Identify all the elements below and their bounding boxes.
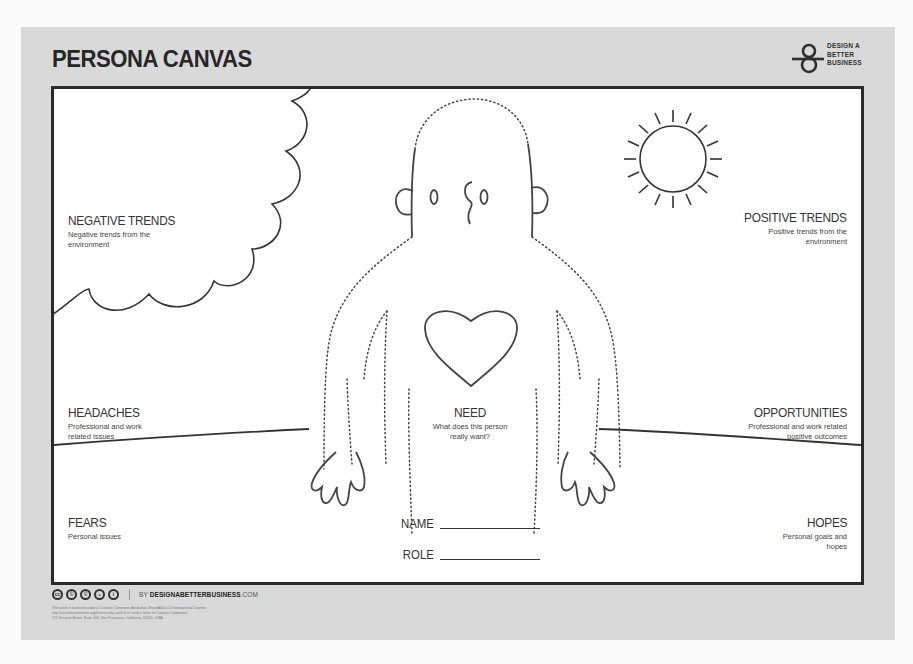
persona-canvas-frame: NEGATIVE TRENDS Negative trends from the… — [51, 86, 864, 585]
cc-by-icon: © — [66, 589, 77, 600]
fears-description: Personal issues — [68, 532, 121, 542]
section-negative-trends[interactable]: NEGATIVE TRENDS Negative trends from the… — [68, 213, 190, 250]
footer: cc © © ◒ i BY DESIGNABETTERBUSINESS.COM … — [52, 589, 282, 621]
hopes-description: Personal goals and hopes — [783, 532, 847, 552]
heart-icon — [425, 311, 517, 386]
site-link[interactable]: BY DESIGNABETTERBUSINESS.COM — [139, 591, 258, 598]
infinity-knot-icon — [790, 40, 826, 80]
section-opportunities[interactable]: OPPORTUNITIES Professional and work rela… — [741, 405, 847, 442]
negative-trends-description: Negative trends from the environment — [68, 230, 190, 250]
role-label: ROLE — [390, 547, 434, 562]
brand-logo: DESIGN A BETTER BUSINESS — [790, 40, 870, 80]
name-input-line[interactable] — [440, 527, 540, 529]
positive-trends-description: Positive trends from the environment — [730, 227, 847, 247]
section-fears[interactable]: FEARS Personal issues — [68, 515, 121, 542]
cc-attribution-icon: i — [108, 589, 119, 600]
footer-divider — [129, 589, 130, 600]
opportunities-description: Professional and work related positive o… — [741, 422, 847, 442]
section-need[interactable]: NEED What does this person really want? — [410, 405, 530, 442]
name-label: NAME — [390, 516, 434, 531]
cc-nc-icon: © — [80, 589, 91, 600]
cc-icon: cc — [52, 589, 63, 600]
cc-sa-icon: ◒ — [94, 589, 105, 600]
cloud-icon — [54, 89, 312, 317]
headaches-description: Professional and work related issues — [68, 422, 149, 442]
persona-figure-icon — [312, 99, 620, 534]
section-positive-trends[interactable]: POSITIVE TRENDS Positive trends from the… — [730, 210, 847, 247]
sun-icon — [624, 110, 722, 208]
page-title: PERSONA CANVAS — [52, 45, 252, 73]
brand-name: DESIGN A BETTER BUSINESS — [827, 42, 862, 68]
section-headaches[interactable]: HEADACHES Professional and work related … — [68, 405, 149, 442]
section-hopes[interactable]: HOPES Personal goals and hopes — [783, 515, 847, 552]
license-text: This work is licensed under a Creative C… — [52, 606, 282, 621]
canvas-artwork — [54, 89, 861, 582]
role-field[interactable]: ROLE — [384, 547, 540, 562]
name-field[interactable]: NAME — [384, 516, 540, 531]
need-description: What does this person really want? — [410, 422, 530, 442]
role-input-line[interactable] — [440, 558, 540, 560]
